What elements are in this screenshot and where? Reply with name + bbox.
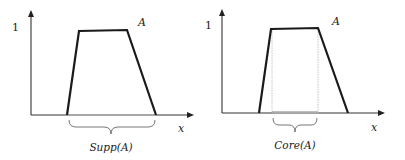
core-brace <box>273 118 317 132</box>
y-tick-one-label: 1 <box>205 19 212 32</box>
y-tick-one-label: 1 <box>12 21 19 34</box>
core-panel: 1 A x Core(A) <box>205 11 383 151</box>
support-caption: Supp(A) <box>89 141 132 153</box>
membership-function-trapezoid <box>67 30 156 115</box>
fuzzy-set-diagram: 1 A x Supp(A) 1 A x Core(A) <box>0 0 405 160</box>
core-caption: Core(A) <box>274 139 315 151</box>
support-brace <box>69 120 155 134</box>
x-axis-label: x <box>178 122 185 135</box>
support-panel: 1 A x Supp(A) <box>12 12 192 153</box>
x-axis-label: x <box>371 121 378 134</box>
set-a-label: A <box>331 15 340 28</box>
set-a-label: A <box>137 16 146 29</box>
